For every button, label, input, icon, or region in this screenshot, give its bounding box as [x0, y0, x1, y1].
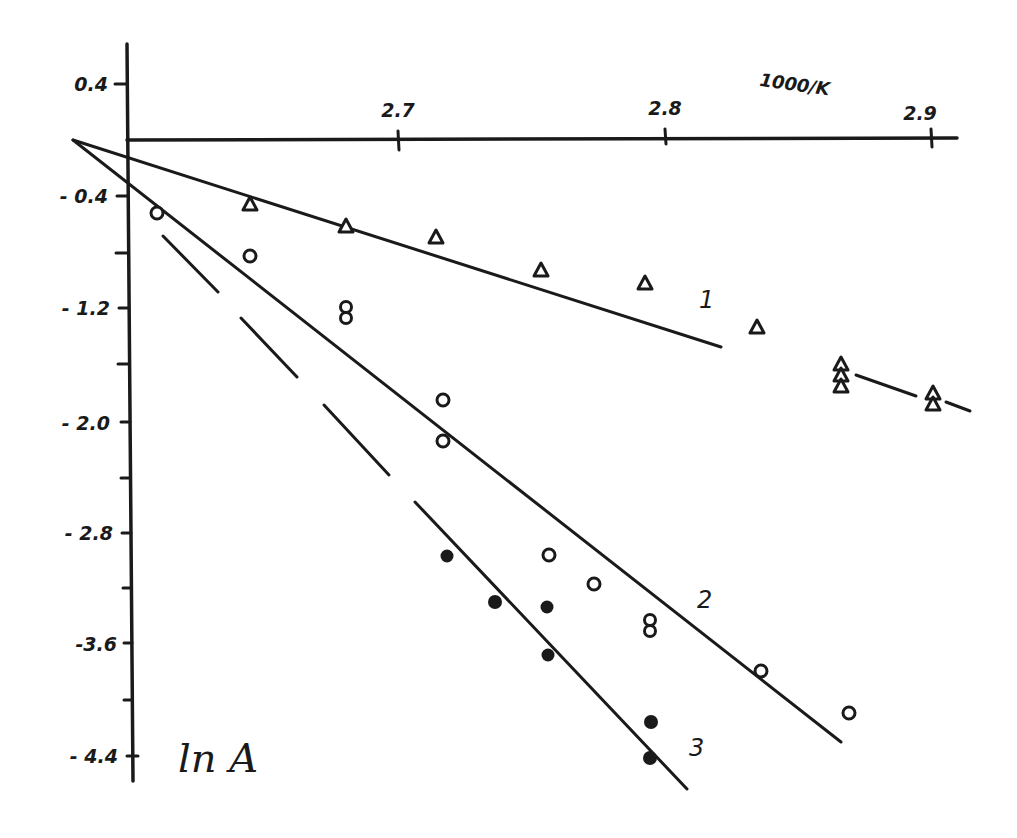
open-circle-marker — [543, 549, 555, 561]
x-axis — [127, 138, 957, 140]
triangle-marker — [750, 320, 764, 333]
fit-line-2 — [73, 140, 841, 742]
x-tick-labels: 2.7 2.8 2.9 — [381, 97, 937, 124]
y-axis — [127, 44, 133, 781]
open-circle-marker — [151, 207, 163, 219]
open-circle-marker — [645, 626, 656, 637]
filled-circle-marker — [541, 601, 554, 614]
x-tick-label: 2.7 — [381, 99, 415, 121]
filled-circle-marker — [644, 715, 658, 729]
dashed-extrapolation — [241, 318, 297, 377]
filled-circle-marker — [488, 595, 502, 609]
triangle-marker — [534, 263, 548, 276]
open-circle-marker — [843, 707, 855, 719]
x-tick-label: 2.9 — [903, 102, 937, 124]
open-circle-marker — [244, 250, 256, 262]
open-circle-marker — [755, 665, 767, 677]
filled-circle-marker — [542, 649, 555, 662]
filled-circle-marker — [643, 751, 657, 765]
open-circle-marker — [437, 435, 449, 447]
series-3-markers — [441, 550, 659, 766]
triangle-marker — [638, 276, 652, 289]
fit-line-3 — [415, 502, 687, 789]
y-tick-label: -3.6 — [75, 633, 117, 655]
open-circle-marker — [341, 302, 352, 313]
x-axis-title: 1000/K — [758, 69, 833, 100]
open-circle-marker — [437, 394, 449, 406]
y-tick-label: - 2.0 — [62, 412, 110, 434]
y-tick-label: - 4.4 — [70, 745, 118, 767]
open-circle-marker — [588, 578, 600, 590]
y-tick-labels: 0.4 - 0.4 - 1.2 - 2.0 - 2.8 -3.6 - 4.4 — [60, 73, 118, 767]
fit-line-1-segment — [946, 402, 970, 411]
fit-line-1-segment — [856, 375, 916, 396]
y-tick-label: - 2.8 — [65, 522, 113, 544]
open-circle-marker — [645, 615, 656, 626]
series-label-2: 2 — [697, 586, 712, 614]
y-axis-title: ln A — [178, 735, 258, 781]
fit-lines — [73, 140, 970, 789]
series-label-3: 3 — [689, 734, 704, 762]
triangle-marker — [429, 230, 443, 243]
arrhenius-plot: 0.4 - 0.4 - 1.2 - 2.0 - 2.8 -3.6 - 4.4 2… — [0, 0, 1017, 838]
dashed-extrapolation — [324, 405, 389, 475]
y-tick-label: 0.4 — [74, 73, 108, 95]
filled-circle-marker — [441, 550, 454, 563]
series-label-1: 1 — [699, 286, 714, 314]
x-tick-label: 2.8 — [648, 97, 682, 119]
y-tick-label: - 1.2 — [62, 297, 110, 319]
series-labels: 1 2 3 — [689, 286, 714, 762]
axes — [127, 44, 957, 781]
triangle-marker — [339, 219, 353, 232]
dashed-extrapolation — [163, 236, 218, 292]
open-circle-marker — [341, 313, 352, 324]
y-tick-label: - 0.4 — [60, 185, 108, 207]
